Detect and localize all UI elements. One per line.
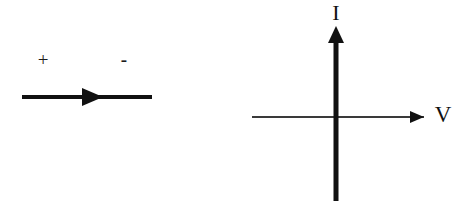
iv-characteristic-figure: + - V I — [0, 0, 468, 203]
i-axis-arrowhead-icon — [328, 26, 344, 43]
plus-sign-label: + — [38, 49, 49, 70]
iv-axes-diagram: V I — [252, 0, 452, 201]
current-direction-diagram: + - — [22, 49, 152, 106]
minus-sign-label: - — [121, 49, 127, 70]
v-axis-arrowhead-icon — [410, 111, 424, 123]
figure-canvas: + - V I — [0, 0, 468, 203]
i-axis-label: I — [332, 0, 339, 25]
current-arrowhead-icon — [82, 88, 103, 106]
v-axis-label: V — [435, 102, 452, 127]
